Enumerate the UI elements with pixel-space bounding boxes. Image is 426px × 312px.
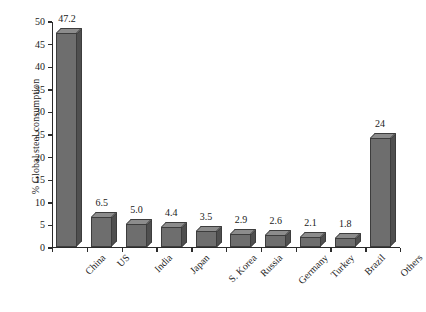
y-tick-label: 30 [15,105,45,119]
bar-value-label: 3.5 [200,211,213,223]
bar-value-label: 6.5 [95,197,108,209]
bar-front-face [91,217,112,246]
y-tick-mark [48,44,52,45]
y-tick-mark [48,157,52,158]
x-axis-label: India [152,252,175,275]
x-axis-label: S. Korea [226,252,259,285]
x-tick-mark [191,248,192,252]
x-tick-mark [52,248,53,252]
bar-value-label: 47.2 [58,13,76,25]
y-tick-label: 15 [15,173,45,187]
bar-value-label: 2.6 [269,215,282,227]
y-tick-label: 5 [15,218,45,232]
bar-chart: % Global steel consumption 0510152025303… [0,0,426,312]
y-tick-label: 25 [15,128,45,142]
y-tick-mark [48,134,52,135]
x-tick-mark [156,248,157,252]
x-axis-label: Russia [258,252,285,279]
x-axis-label: China [83,252,108,277]
bar-front-face [126,224,147,247]
y-tick-mark [48,180,52,181]
y-tick-mark [48,112,52,113]
bar-value-label: 24 [375,118,385,130]
x-tick-mark [87,248,88,252]
bar-front-face [300,237,321,246]
bar: 5.0 [126,224,147,247]
bar: 24 [370,138,391,246]
bar-front-face [370,138,391,246]
bar: 3.5 [196,231,217,247]
bar-front-face [230,234,251,247]
y-tick-mark [48,67,52,68]
x-tick-mark [296,248,297,252]
bar-front-face [56,33,77,246]
bar-front-face [265,235,286,247]
x-axis-label: Others [397,252,424,279]
y-tick-label: 35 [15,83,45,97]
bar-value-label: 1.8 [339,218,352,230]
bar-front-face [196,231,217,247]
y-tick-label: 20 [15,151,45,165]
bar-value-label: 2.1 [304,217,317,229]
plot-area: 05101520253035404550 47.26.55.04.43.52.9… [52,22,400,248]
bar: 4.4 [161,227,182,247]
x-tick-mark [261,248,262,252]
bar-front-face [335,238,356,246]
y-tick-label: 50 [15,15,45,29]
bar-side-face [77,28,82,246]
x-axis-label: US [115,252,133,270]
y-tick-label: 45 [15,38,45,52]
bar-top-face [196,226,222,231]
x-axis-label: Germany [296,252,331,287]
y-tick-label: 40 [15,60,45,74]
x-tick-mark [365,248,366,252]
x-tick-mark [330,248,331,252]
y-axis-line [52,22,53,248]
x-tick-mark [400,248,401,252]
bar-value-label: 5.0 [130,204,143,216]
bar: 2.9 [230,234,251,247]
bar: 6.5 [91,217,112,246]
x-axis-label: Japan [187,252,212,277]
bar: 2.6 [265,235,286,247]
bar-value-label: 4.4 [165,207,178,219]
x-axis-label: Brazil [362,252,388,278]
bar: 47.2 [56,33,77,246]
bar-side-face [391,133,396,246]
y-tick-mark [48,21,52,22]
y-tick-label: 0 [15,241,45,255]
y-tick-mark [48,202,52,203]
bar-side-face [112,212,117,246]
bar: 2.1 [300,237,321,246]
y-tick-mark [48,225,52,226]
y-tick-mark [48,89,52,90]
y-tick-label: 10 [15,196,45,210]
bar-value-label: 2.9 [235,214,248,226]
bar: 1.8 [335,238,356,246]
bar-front-face [161,227,182,247]
x-axis-label: Turkey [328,252,357,281]
bar-top-face [161,222,187,227]
x-tick-mark [226,248,227,252]
